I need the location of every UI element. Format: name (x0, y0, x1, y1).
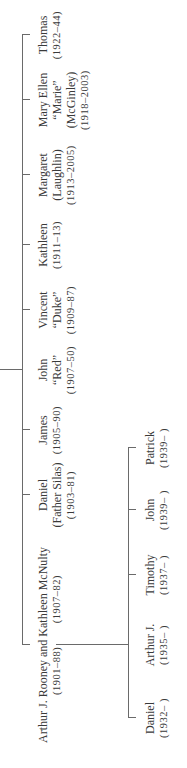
tick-child-patrick (128, 447, 136, 448)
tick-child-john (128, 509, 136, 510)
parents-label: Arthur J. Rooney and Kathleen McNulty (36, 547, 50, 743)
family-tree-diagram: Arthur J. Rooney and Kathleen McNulty (1… (0, 0, 187, 768)
dates: (1905–90) (50, 406, 64, 454)
sibling-mary-ellen: Mary Ellen “Marie” (McGinley) (1918–2003… (36, 70, 92, 130)
name: Patrick (143, 428, 157, 468)
dates: (1937– ) (157, 555, 171, 596)
tick-mary-ellen (22, 99, 30, 100)
sibling-margaret: Margaret (Laughlin) (1913–2005) (36, 145, 78, 205)
name: Vincent (36, 286, 50, 334)
child-john: John (1939– ) (143, 490, 171, 530)
dates: (1932– ) (157, 698, 171, 738)
sibling-daniel: Daniel (Father Silas) (1903–81) (36, 463, 78, 528)
parent-stem-line (0, 369, 22, 370)
name: Kathleen (36, 221, 50, 269)
dates: (1911–13) (50, 221, 64, 269)
dates: (1913–2005) (64, 145, 78, 205)
name: John (36, 346, 50, 394)
dates: (1903–81) (64, 463, 78, 528)
dates: (1907–50) (64, 346, 78, 394)
name: Daniel (143, 698, 157, 738)
parents-node: Arthur J. Rooney and Kathleen McNulty (1… (36, 547, 64, 743)
dates: (1918–2003) (78, 70, 92, 130)
name: Daniel (36, 463, 50, 528)
married-name: (Laughlin) (50, 145, 64, 205)
dates: (1939– ) (157, 490, 171, 530)
tick-arthur (22, 644, 30, 645)
sibling-bracket-line (22, 34, 23, 645)
dates: (1922–44) (50, 11, 64, 59)
child-arthur-j: Arthur J. (1935– ) (143, 624, 171, 667)
sibling-vincent: Vincent “Duke” (1909–87) (36, 286, 78, 334)
name: Thomas (36, 11, 50, 59)
tick-thomas (22, 34, 30, 35)
sibling-thomas: Thomas (1922–44) (36, 11, 64, 59)
tick-child-timothy (128, 574, 136, 575)
sibling-kathleen: Kathleen (1911–13) (36, 221, 64, 269)
name: Timothy (143, 555, 157, 596)
tick-margaret (22, 174, 30, 175)
child-daniel: Daniel (1932– ) (143, 698, 171, 738)
tick-kathleen (22, 244, 30, 245)
dates: (1939– ) (157, 428, 171, 468)
dates: (1909–87) (64, 286, 78, 334)
mother-dates: (1907–82) (50, 575, 64, 623)
nickname: “Duke” (50, 286, 64, 334)
tick-daniel (22, 494, 30, 495)
children-bracket-line (128, 447, 129, 718)
name: Arthur J. (143, 624, 157, 667)
sibling-james: James (1905–90) (36, 406, 64, 454)
name: Margaret (36, 145, 50, 205)
child-patrick: Patrick (1939– ) (143, 428, 171, 468)
name: Mary Ellen (36, 70, 50, 130)
nickname: “Marie” (50, 70, 64, 130)
children-stem-line (56, 644, 128, 645)
tick-vincent (22, 309, 30, 310)
dates: (1935– ) (157, 624, 171, 667)
tick-james (22, 429, 30, 430)
nickname: “Red” (50, 346, 64, 394)
child-timothy: Timothy (1937– ) (143, 555, 171, 596)
name: John (143, 490, 157, 530)
alias: (Father Silas) (50, 463, 64, 528)
father-dates: (1901–88) (50, 647, 64, 695)
married-name: (McGinley) (64, 70, 78, 130)
name: James (36, 406, 50, 454)
tick-child-daniel (128, 717, 136, 718)
sibling-john: John “Red” (1907–50) (36, 346, 78, 394)
